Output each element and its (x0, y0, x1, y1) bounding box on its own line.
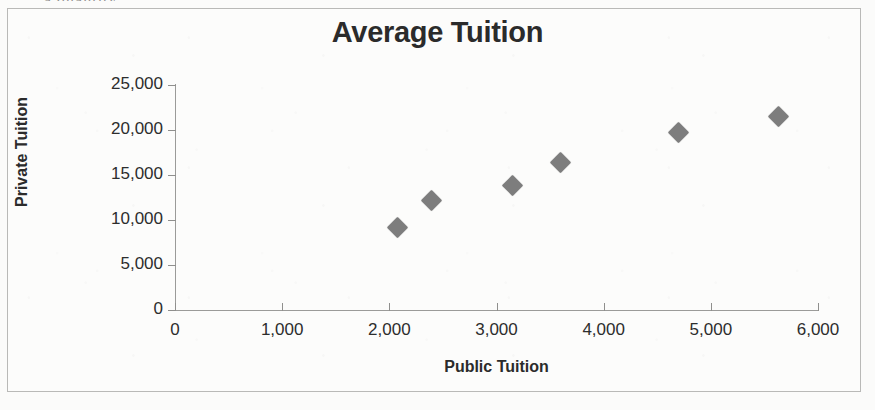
x-axis-tick-label: 3,000 (475, 320, 518, 340)
y-axis-tick-mark (168, 220, 176, 221)
y-axis-tick-label: 20,000 (111, 119, 163, 139)
x-axis-tick-label: 0 (170, 320, 179, 340)
y-axis-tick-mark (168, 265, 176, 266)
y-axis-tick-mark (168, 175, 176, 176)
y-axis-tick-label: 25,000 (111, 74, 163, 94)
y-axis-tick-mark (168, 130, 176, 131)
y-axis-tick-mark (168, 85, 176, 86)
x-axis-title: Public Tuition (175, 358, 818, 376)
scatter-point (502, 175, 523, 196)
y-axis-title: Private Tuition (13, 72, 31, 232)
y-axis-tick-mark (168, 310, 176, 311)
scatter-point (550, 152, 571, 173)
y-axis-tick-label: 15,000 (111, 164, 163, 184)
x-axis-tick-label: 2,000 (368, 320, 411, 340)
x-axis-tick-label: 5,000 (690, 320, 733, 340)
scatter-point (668, 122, 689, 143)
x-axis-tick-mark (818, 303, 819, 311)
plot-area (175, 85, 818, 310)
y-axis-tick-label: 0 (154, 299, 163, 319)
x-axis-tick-label: 4,000 (582, 320, 625, 340)
y-axis-tick-label: 5,000 (120, 254, 163, 274)
scatter-point (421, 190, 442, 211)
x-axis-tick-label: 6,000 (797, 320, 840, 340)
scatter-point (768, 106, 789, 127)
x-axis-tick-label: 1,000 (261, 320, 304, 340)
scatter-point (387, 217, 408, 238)
scanned-figure-page: a quantity Average Tuition 05,00010,0001… (0, 0, 875, 410)
y-axis-tick-label: 10,000 (111, 209, 163, 229)
